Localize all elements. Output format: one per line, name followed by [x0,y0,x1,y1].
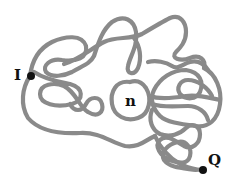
end-point [199,166,207,174]
start-point [27,72,35,80]
curve-left-lobes [30,18,140,76]
start-label: I [14,66,21,84]
tangled-path-diagram: I n Q [0,0,242,191]
curve-middle-left [34,72,102,114]
end-label: Q [208,151,221,169]
region-label: n [125,92,136,110]
